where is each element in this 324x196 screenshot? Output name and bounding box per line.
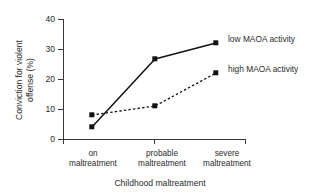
series-low-maoa-line [92,43,216,127]
y-axis-title: Conviction for violent offense (%) [14,40,35,120]
series-low-maoa-activity [89,40,218,129]
y-tick-label-20: 20 [46,74,56,84]
y-tick-label-10: 10 [46,104,56,114]
line-chart: Conviction for violent offense (%) 0 10 … [0,0,324,196]
data-point-high-2 [213,70,218,75]
x-category-2-line2: maltreatment [203,159,252,168]
x-category-1-line2: maltreatment [138,159,187,168]
data-point-high-1 [152,103,157,108]
series-high-maoa-line [92,73,216,115]
y-axis-title-line1: Conviction for violent [14,40,24,120]
y-tick-label-0: 0 [50,134,55,144]
data-point-low-2 [213,40,218,45]
x-category-1-line1: probable [146,149,178,158]
series-high-maoa-activity [89,70,218,117]
x-axis-ticks [63,139,245,144]
data-point-low-1 [152,56,157,61]
y-axis-ticks [58,19,63,139]
y-tick-label-30: 30 [46,44,56,54]
y-axis-title-line2: offense (%) [25,58,35,102]
data-point-low-0 [89,124,94,129]
x-category-0-line1: on [88,149,98,158]
x-category-0-line2: maltreatment [69,159,118,168]
y-axis-tick-labels: 0 10 20 30 40 [46,14,56,144]
legend-item-low-maoa-activity: low MAOA activity [228,34,296,44]
chart-legend: low MAOA activity high MAOA activity [228,34,299,74]
data-point-high-0 [89,112,94,117]
x-axis-title: Childhood maltreatment [114,178,206,188]
x-category-2-line1: severe [215,149,240,158]
legend-item-high-maoa-activity: high MAOA activity [228,64,299,74]
x-axis-category-labels: on maltreatment probable maltreatment se… [69,149,252,168]
y-tick-label-40: 40 [46,14,56,24]
